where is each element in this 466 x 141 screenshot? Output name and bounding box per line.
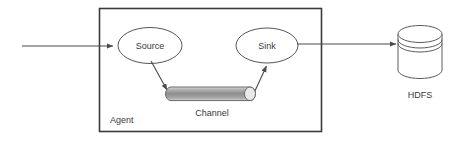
node-hdfs xyxy=(398,26,442,79)
channel-cylinder-cap xyxy=(245,87,256,101)
node-source-label: Source xyxy=(136,41,165,51)
channel-cylinder-body xyxy=(166,87,256,101)
diagram-canvas: Source Sink Channel Agent HDFS xyxy=(0,0,466,141)
node-hdfs-label: HDFS xyxy=(408,90,433,100)
flume-architecture-diagram: Source Sink Channel Agent HDFS xyxy=(0,0,466,141)
node-channel-label: Channel xyxy=(195,108,229,118)
node-sink-label: Sink xyxy=(258,41,276,51)
node-channel xyxy=(166,87,256,101)
hdfs-cylinder-top xyxy=(398,26,442,43)
agent-label: Agent xyxy=(110,115,134,125)
